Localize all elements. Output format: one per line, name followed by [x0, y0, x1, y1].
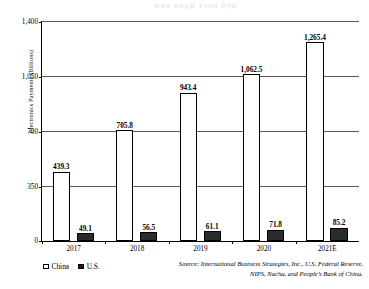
bar-label-china-2020: 1,062.5: [241, 65, 263, 74]
xtick-mark-2018: [105, 241, 106, 244]
bar-label-china-2017: 439.3: [53, 162, 69, 171]
legend-swatch-china-icon: [43, 264, 49, 270]
bar-us-2017[interactable]: 49.1: [77, 233, 94, 241]
chart-legend: China U.S.: [43, 262, 100, 271]
bar-china-2018[interactable]: 705.8: [116, 130, 133, 241]
bar-label-china-2021E: 1,265.4: [304, 33, 326, 42]
bar-label-china-2018: 705.8: [117, 121, 133, 130]
bar-label-china-2019: 943.4: [180, 83, 196, 92]
bar-label-us-2017: 49.1: [79, 224, 92, 233]
xtick-mark-2020: [232, 241, 233, 244]
bar-group-2021E: 1,265.4 85.2 2021E: [296, 21, 359, 241]
xtick-label-2020: 2020: [257, 245, 271, 253]
bar-chart: Electronics Payments (Billions) 1,400 1,…: [0, 0, 369, 289]
bar-china-2020[interactable]: 1,062.5: [243, 74, 260, 241]
ytick-label-350: 350: [27, 183, 38, 191]
y-axis-title: Electronics Payments (Billions): [27, 12, 34, 172]
bar-label-us-2021E: 85.2: [333, 218, 346, 227]
ytick-label-1400: 1,400: [22, 18, 38, 26]
bar-us-2018[interactable]: 56.5: [140, 232, 157, 241]
bar-group-2020: 1,062.5 71.8 2020: [232, 21, 295, 241]
legend-item-china[interactable]: China: [43, 262, 69, 271]
xtick-mark-2021E: [296, 241, 297, 244]
bar-label-us-2020: 71.8: [269, 220, 282, 229]
bar-label-us-2019: 61.1: [206, 222, 219, 231]
ytick-label-700: 700: [27, 128, 38, 136]
bar-us-2020[interactable]: 71.8: [267, 230, 284, 241]
source-note-line-1: Source: International Business Strategie…: [113, 259, 363, 269]
bar-china-2017[interactable]: 439.3: [53, 172, 70, 241]
legend-label-us: U.S.: [87, 262, 100, 271]
xtick-label-2017: 2017: [67, 245, 81, 253]
plot-area: 1,400 1,050 700 350 0 439.3 49.1: [41, 21, 359, 242]
bar-label-us-2018: 56.5: [142, 223, 155, 232]
ytick-label-0: 0: [34, 237, 38, 245]
bar-group-2019: 943.4 61.1 2019: [169, 21, 232, 241]
bar-groups: 439.3 49.1 2017 705.8 56.5 2018: [42, 21, 359, 241]
legend-swatch-us-icon: [78, 264, 84, 270]
bar-group-2018: 705.8 56.5 2018: [105, 21, 168, 241]
xtick-mark-2017: [42, 241, 43, 244]
bar-china-2019[interactable]: 943.4: [180, 93, 197, 241]
bar-china-2021E[interactable]: 1,265.4: [306, 42, 323, 241]
legend-item-us[interactable]: U.S.: [78, 262, 100, 271]
bar-group-2017: 439.3 49.1 2017: [42, 21, 105, 241]
xtick-mark-2019: [169, 241, 170, 244]
ytick-label-1050: 1,050: [22, 73, 38, 81]
xtick-label-2018: 2018: [130, 245, 144, 253]
bar-us-2021E[interactable]: 85.2: [330, 228, 347, 241]
source-note: Source: International Business Strategie…: [113, 259, 363, 278]
source-note-line-2: NIPS, Nacha, and People’s Bank of China.: [113, 269, 363, 279]
legend-label-china: China: [52, 262, 70, 271]
xtick-label-2019: 2019: [193, 245, 207, 253]
xtick-label-2021E: 2021E: [318, 245, 337, 253]
bar-us-2019[interactable]: 61.1: [204, 231, 221, 241]
